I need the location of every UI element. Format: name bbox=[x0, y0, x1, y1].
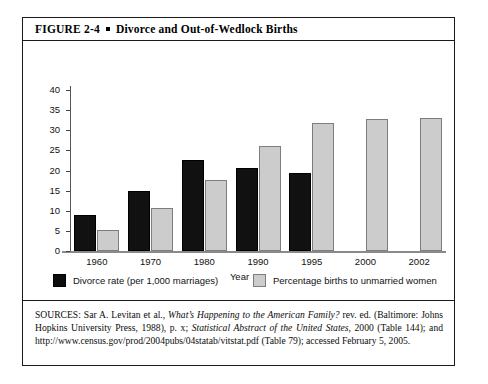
legend-label: Percentage births to unmarried women bbox=[273, 276, 437, 286]
chart-legend: Divorce rate (per 1,000 marriages)Percen… bbox=[23, 271, 456, 293]
bar bbox=[97, 230, 119, 251]
y-tick-mark bbox=[66, 231, 70, 232]
legend-label: Divorce rate (per 1,000 marriages) bbox=[73, 276, 218, 286]
y-tick-label: 35 bbox=[38, 105, 60, 115]
y-tick-mark bbox=[66, 110, 70, 111]
y-axis-line bbox=[70, 86, 71, 252]
y-tick-mark bbox=[66, 251, 70, 252]
bar bbox=[289, 173, 311, 251]
bar bbox=[151, 208, 173, 251]
bar bbox=[182, 160, 204, 251]
y-tick-label: 30 bbox=[38, 125, 60, 135]
y-tick-mark bbox=[66, 150, 70, 151]
x-tick-label: 1990 bbox=[231, 257, 285, 267]
bar bbox=[74, 215, 96, 251]
y-tick-mark bbox=[66, 130, 70, 131]
legend-swatch-icon bbox=[53, 274, 66, 287]
x-axis-line bbox=[62, 251, 446, 253]
bar bbox=[366, 119, 388, 251]
x-tick-label: 1980 bbox=[177, 257, 231, 267]
x-tick-label: 2000 bbox=[339, 257, 393, 267]
y-tick-label: 25 bbox=[38, 145, 60, 155]
y-tick-mark bbox=[66, 171, 70, 172]
bar bbox=[128, 191, 150, 251]
legend-item: Divorce rate (per 1,000 marriages) bbox=[53, 274, 218, 287]
legend-item: Percentage births to unmarried women bbox=[253, 274, 437, 287]
x-tick-label: 1970 bbox=[124, 257, 178, 267]
y-tick-label: 0 bbox=[38, 246, 60, 256]
bar bbox=[312, 123, 334, 251]
legend-swatch-icon bbox=[253, 274, 266, 287]
square-bullet-icon bbox=[106, 27, 110, 31]
page-title: Divorce and Out-of-Wedlock Births bbox=[116, 23, 298, 35]
bar bbox=[205, 180, 227, 251]
x-tick-label: 1995 bbox=[285, 257, 339, 267]
y-tick-label: 20 bbox=[38, 166, 60, 176]
x-tick-label: 1960 bbox=[70, 257, 124, 267]
bar bbox=[236, 168, 258, 251]
sources-italic-title-2: Statistical Abstract of the United State… bbox=[192, 322, 351, 333]
sources-prefix: SOURCES: Sar A. Levitan et al., bbox=[35, 309, 165, 320]
sources-italic-title-1: What’s Happening to the American Family? bbox=[168, 309, 340, 320]
bar-chart: 0510152025303540 19601970198019901995200… bbox=[23, 41, 456, 269]
divider bbox=[23, 300, 454, 301]
figure-container: FIGURE 2-4 Divorce and Out-of-Wedlock Bi… bbox=[22, 17, 455, 366]
y-tick-label: 5 bbox=[38, 226, 60, 236]
sources-note: SOURCES: Sar A. Levitan et al., What’s H… bbox=[35, 309, 443, 348]
y-tick-label: 40 bbox=[38, 85, 60, 95]
y-tick-mark bbox=[66, 90, 70, 91]
bar bbox=[420, 118, 442, 251]
y-tick-mark bbox=[66, 211, 70, 212]
figure-number: FIGURE 2-4 bbox=[35, 23, 100, 35]
figure-title-bar: FIGURE 2-4 Divorce and Out-of-Wedlock Bi… bbox=[23, 18, 454, 41]
y-tick-label: 15 bbox=[38, 186, 60, 196]
x-tick-label: 2002 bbox=[392, 257, 446, 267]
y-tick-label: 10 bbox=[38, 206, 60, 216]
y-tick-mark bbox=[66, 191, 70, 192]
bar bbox=[259, 146, 281, 251]
